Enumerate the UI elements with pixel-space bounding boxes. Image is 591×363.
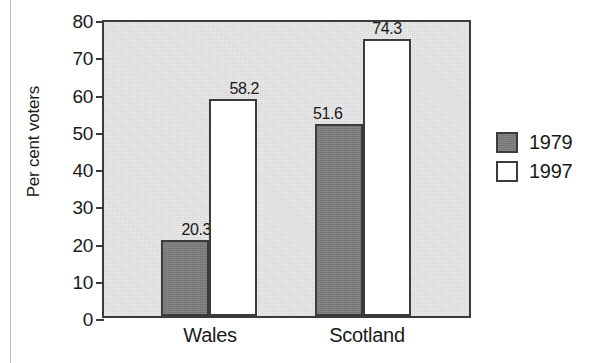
- outlined-white-square-icon: [496, 161, 518, 182]
- bar-scotland-1979[interactable]: 51.6: [315, 124, 363, 316]
- y-tick-mark: [96, 133, 104, 135]
- legend: 1979 1997: [496, 128, 572, 186]
- y-axis-title: Per cent voters: [24, 86, 44, 197]
- y-tick-label: 80: [72, 11, 93, 33]
- bar-scotland-1997[interactable]: 74.3: [363, 39, 411, 316]
- y-tick-label: 20: [72, 235, 93, 257]
- bar-value-label: 74.3: [372, 20, 402, 38]
- y-tick-mark: [96, 21, 104, 23]
- bar-wales-1979[interactable]: 20.3: [161, 240, 209, 316]
- y-tick-mark: [96, 245, 104, 247]
- legend-label: 1979: [529, 131, 572, 154]
- bar-value-label: 20.3: [181, 221, 211, 239]
- y-tick-label: 30: [72, 197, 93, 219]
- y-tick-label: 10: [72, 272, 93, 294]
- y-tick-mark: [96, 282, 104, 284]
- bar-value-label: 58.2: [229, 80, 259, 98]
- filled-gray-square-icon: [496, 132, 518, 153]
- y-tick-label: 40: [72, 160, 93, 182]
- x-axis-label-wales: Wales: [150, 324, 270, 347]
- legend-item-1997[interactable]: 1997: [496, 157, 572, 186]
- y-tick-mark: [96, 58, 104, 60]
- legend-label: 1997: [529, 160, 572, 183]
- y-tick-label: 70: [72, 48, 93, 70]
- y-tick-mark: [96, 170, 104, 172]
- legend-item-1979[interactable]: 1979: [496, 128, 572, 157]
- y-tick-mark: [96, 207, 104, 209]
- x-axis-label-scotland: Scotland: [303, 324, 431, 347]
- y-tick-label: 0: [83, 309, 93, 331]
- bar-wales-1997[interactable]: 58.2: [209, 99, 257, 316]
- y-tick-mark: [96, 319, 104, 321]
- y-tick-label: 50: [72, 123, 93, 145]
- bar-value-label: 51.6: [313, 105, 343, 123]
- y-tick-label: 60: [72, 86, 93, 108]
- plot-area: 0 10 20 30 40 50 60 70: [102, 20, 471, 318]
- bar-chart: Per cent voters 0 10 20 30 40 50 6: [0, 0, 591, 363]
- y-tick-mark: [96, 96, 104, 98]
